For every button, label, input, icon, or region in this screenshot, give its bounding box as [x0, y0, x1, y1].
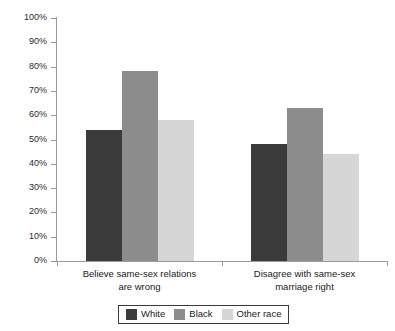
y-axis-tick-label: 100% — [24, 11, 47, 24]
y-axis-tick: 50% — [0, 140, 57, 141]
y-axis-tick: 70% — [0, 91, 57, 92]
bar-black-group-2 — [287, 108, 323, 261]
plot-area — [57, 18, 387, 261]
y-axis-tick-mark — [51, 91, 56, 92]
x-axis-category-label: Believe same-sex relations are wrong — [57, 268, 222, 293]
y-axis-tick-mark — [51, 237, 56, 238]
legend-swatch-icon — [126, 309, 137, 320]
y-axis-tick-label: 10% — [29, 230, 47, 243]
y-axis-tick-label: 60% — [29, 108, 47, 121]
y-axis-tick-label: 20% — [29, 205, 47, 218]
y-axis-tick: 60% — [0, 115, 57, 116]
legend-swatch-icon — [174, 309, 185, 320]
legend-item-black[interactable]: Black — [174, 308, 212, 320]
bar-chart: 100%90%80%70%60%50%40%30%20%10%0% Believ… — [0, 0, 395, 331]
x-axis-tick-mark — [387, 261, 388, 266]
legend-item-white[interactable]: White — [126, 308, 165, 320]
y-axis-tick: 30% — [0, 188, 57, 189]
bar-white-group-1 — [86, 130, 122, 261]
y-axis-tick: 80% — [0, 67, 57, 68]
y-axis-tick: 100% — [0, 18, 57, 19]
legend: WhiteBlackOther race — [118, 305, 289, 324]
y-axis-tick-mark — [51, 261, 56, 262]
legend-item-other-race[interactable]: Other race — [222, 308, 282, 320]
bar-black-group-1 — [122, 71, 158, 261]
y-axis-tick-label: 70% — [29, 84, 47, 97]
y-axis-tick-mark — [51, 140, 56, 141]
legend-label: Other race — [237, 308, 282, 320]
y-axis-tick-mark — [51, 115, 56, 116]
x-axis-tick-mark — [222, 261, 223, 266]
y-axis-tick-mark — [51, 18, 56, 19]
y-axis-tick-mark — [51, 188, 56, 189]
y-axis-tick-label: 90% — [29, 35, 47, 48]
y-axis-tick-label: 40% — [29, 157, 47, 170]
y-axis-tick: 0% — [0, 261, 57, 262]
y-axis-tick-mark — [51, 42, 56, 43]
y-axis-tick-label: 0% — [34, 254, 47, 267]
y-axis-tick: 20% — [0, 212, 57, 213]
y-axis-tick: 10% — [0, 237, 57, 238]
y-axis-tick: 40% — [0, 164, 57, 165]
bar-white-group-2 — [251, 144, 287, 261]
x-axis-category-label: Disagree with same-sex marriage right — [222, 268, 387, 293]
legend-label: Black — [189, 308, 212, 320]
y-axis-tick-mark — [51, 164, 56, 165]
y-axis-tick: 90% — [0, 42, 57, 43]
y-axis-tick-mark — [51, 67, 56, 68]
y-axis-tick-mark — [51, 212, 56, 213]
y-axis-tick-label: 50% — [29, 133, 47, 146]
bar-other-race-group-1 — [158, 120, 194, 261]
bar-other-race-group-2 — [323, 154, 359, 261]
x-axis-tick-mark — [57, 261, 58, 266]
legend-swatch-icon — [222, 309, 233, 320]
y-axis-tick-label: 30% — [29, 181, 47, 194]
y-axis-tick-label: 80% — [29, 60, 47, 73]
legend-label: White — [141, 308, 165, 320]
